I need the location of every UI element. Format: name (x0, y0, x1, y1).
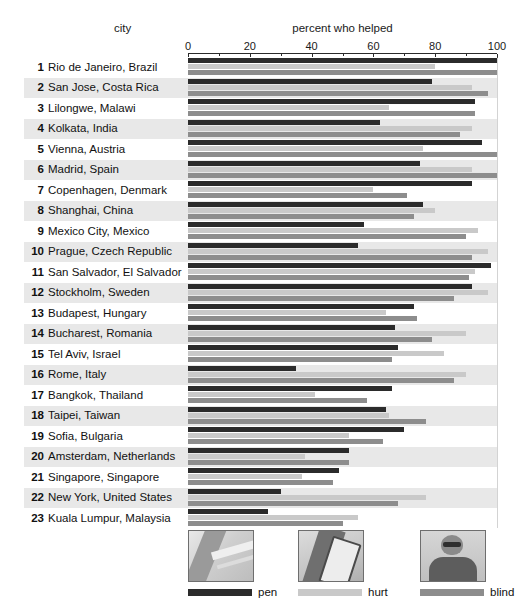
row-rank: 17 (24, 389, 44, 401)
legend-swatch-pen (188, 589, 252, 596)
x-axis-tick-labels: 020406080100 (188, 40, 497, 53)
bar-hurt (188, 208, 435, 213)
photo-hurt-leg (298, 530, 364, 582)
bar-blind (188, 152, 497, 157)
row-city-label: Stockholm, Sweden (48, 286, 185, 298)
bar-blind (188, 132, 460, 137)
legend-item-blind: blind (420, 530, 526, 598)
bar-pen (188, 304, 414, 309)
row-bars (188, 406, 497, 427)
row-city-label: Prague, Czech Republic (48, 245, 185, 257)
row-rank: 23 (24, 512, 44, 524)
chart-row: 18Taipei, Taiwan (0, 406, 526, 427)
legend-label-pen: pen (258, 586, 277, 598)
row-bars (188, 508, 497, 529)
bar-pen (188, 243, 358, 248)
x-tick-label-60: 60 (367, 40, 379, 52)
bar-hurt (188, 249, 488, 254)
bar-blind (188, 357, 392, 362)
row-rank: 12 (24, 286, 44, 298)
row-bars (188, 283, 497, 304)
bar-pen (188, 222, 364, 227)
bar-blind (188, 193, 407, 198)
row-rank: 21 (24, 471, 44, 483)
bar-blind (188, 439, 383, 444)
bar-hurt (188, 105, 389, 110)
chart-row: 22New York, United States (0, 488, 526, 509)
row-rank: 4 (24, 122, 44, 134)
bar-pen (188, 79, 432, 84)
bar-hurt (188, 269, 475, 274)
x-tick-30 (281, 54, 282, 56)
row-city-label: Amsterdam, Netherlands (48, 450, 185, 462)
sunglasses-icon (443, 542, 461, 547)
chart-row: 1Rio de Janeiro, Brazil (0, 57, 526, 78)
row-city-label: Bangkok, Thailand (48, 389, 185, 401)
row-bars (188, 262, 497, 283)
bar-hurt (188, 351, 444, 356)
bar-blind (188, 316, 417, 321)
row-rank: 22 (24, 491, 44, 503)
bar-blind (188, 378, 454, 383)
row-city-label: Kolkata, India (48, 122, 185, 134)
bar-pen (188, 181, 472, 186)
chart-row: 20Amsterdam, Netherlands (0, 447, 526, 468)
axis-title: percent who helped (188, 22, 497, 34)
row-rank: 11 (24, 266, 44, 278)
bar-pen (188, 263, 491, 268)
x-tick-label-100: 100 (488, 40, 506, 52)
bar-hurt (188, 372, 466, 377)
row-bars (188, 98, 497, 119)
legend-label-blind: blind (490, 586, 514, 598)
bar-hurt (188, 495, 426, 500)
row-city-label: Shanghai, China (48, 204, 185, 216)
chart-row: 4Kolkata, India (0, 119, 526, 140)
bar-blind (188, 419, 426, 424)
bar-blind (188, 173, 497, 178)
row-city-label: Rio de Janeiro, Brazil (48, 61, 185, 73)
legend-swatch-blind (420, 589, 484, 596)
bar-hurt (188, 310, 386, 315)
row-rank: 9 (24, 225, 44, 237)
row-rank: 13 (24, 307, 44, 319)
row-bars (188, 242, 497, 263)
photo-blind-man (420, 530, 486, 582)
bar-pen (188, 120, 380, 125)
row-city-label: Copenhagen, Denmark (48, 184, 185, 196)
bar-hurt (188, 167, 472, 172)
bar-blind (188, 398, 367, 403)
row-bars (188, 467, 497, 488)
bar-hurt (188, 290, 488, 295)
chart-page: city percent who helped 020406080100 1Ri… (0, 0, 526, 616)
row-bars (188, 324, 497, 345)
x-tick-50 (343, 54, 344, 56)
bar-hurt (188, 413, 389, 418)
row-city-label: San Salvador, El Salvador (48, 266, 185, 278)
chart-row: 11San Salvador, El Salvador (0, 262, 526, 283)
city-column-header: city (60, 22, 185, 34)
row-city-label: Tel Aviv, Israel (48, 348, 185, 360)
row-rank: 6 (24, 163, 44, 175)
row-rank: 16 (24, 368, 44, 380)
chart-row: 13Budapest, Hungary (0, 303, 526, 324)
row-bars (188, 426, 497, 447)
row-rank: 1 (24, 61, 44, 73)
chart-row: 7Copenhagen, Denmark (0, 180, 526, 201)
chart-row: 6Madrid, Spain (0, 160, 526, 181)
row-rank: 2 (24, 81, 44, 93)
chart-row: 5Vienna, Austria (0, 139, 526, 160)
bar-pen (188, 345, 398, 350)
bar-blind (188, 460, 349, 465)
bar-blind (188, 255, 472, 260)
bar-hurt (188, 433, 349, 438)
row-city-label: Singapore, Singapore (48, 471, 185, 483)
chart-row: 17Bangkok, Thailand (0, 385, 526, 406)
row-bars (188, 365, 497, 386)
bar-pen (188, 366, 296, 371)
bar-pen (188, 161, 420, 166)
row-rank: 15 (24, 348, 44, 360)
chart-row: 19Sofia, Bulgaria (0, 426, 526, 447)
chart-row: 10Prague, Czech Republic (0, 242, 526, 263)
row-bars (188, 221, 497, 242)
chart-row: 16Rome, Italy (0, 365, 526, 386)
